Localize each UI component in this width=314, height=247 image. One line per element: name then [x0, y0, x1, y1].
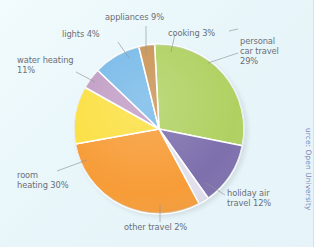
- slice-label-water-heating: water heating 11%: [17, 55, 74, 75]
- leader-line-personal-car-travel: [208, 53, 238, 63]
- slice-label-personal-car-travel: personal car travel 29%: [240, 36, 279, 67]
- slice-label-holiday-air-travel: holiday air travel 12%: [227, 188, 271, 208]
- slice-label-lights: lights 4%: [62, 29, 100, 39]
- slice-label-cooking: cooking 3%: [168, 28, 215, 38]
- page-edge-rule: [313, 0, 314, 247]
- slice-label-appliances: appliances 9%: [105, 12, 164, 22]
- figure-canvas: personal car travel 29%holiday air trave…: [0, 0, 314, 247]
- slice-label-room-heating: room heating 30%: [17, 170, 69, 190]
- pie-slices: personal car travel 29%holiday air trave…: [74, 44, 244, 214]
- slice-label-other-travel: other travel 2%: [124, 222, 187, 232]
- source-note: urce: Open University: [304, 128, 313, 210]
- leader-line-cooking-tail: [229, 29, 238, 31]
